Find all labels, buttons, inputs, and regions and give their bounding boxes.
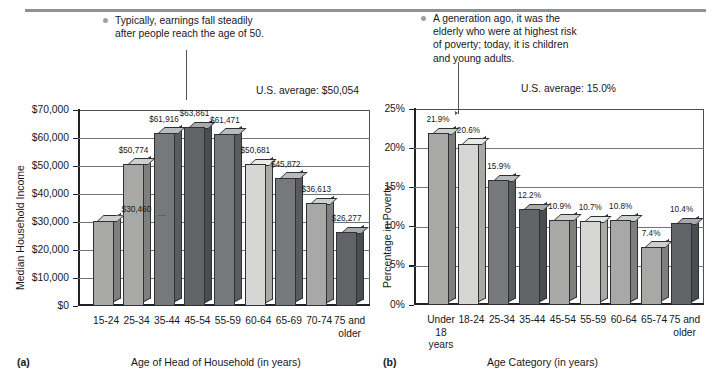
bar-front-face: [123, 164, 144, 306]
bar-value-label: $63,861: [180, 109, 210, 118]
bar-side-face: [114, 213, 121, 302]
bar-front-face: [306, 203, 327, 306]
panel-letter-b: (b): [383, 356, 396, 368]
plot-right-border: [703, 109, 704, 305]
bar-side-face: [601, 214, 608, 302]
bar-side-face: [509, 173, 516, 301]
bar: $45,872: [275, 178, 296, 306]
bar: $63,861: [184, 127, 205, 306]
panel-letter-a: (a): [17, 356, 30, 368]
y-axis-tick: [73, 166, 78, 167]
y-axis-tick: [409, 109, 414, 110]
plot-top-border: [414, 109, 704, 110]
callout-leader-a: [186, 50, 187, 100]
bar-value-label: 10.4%: [670, 205, 693, 214]
x-axis-title-b: Age Category (in years): [487, 356, 598, 368]
bar-front-face: [641, 247, 662, 305]
bar: 21.9%: [428, 133, 449, 305]
bar-front-face: [610, 220, 631, 305]
bar-side-face: [540, 202, 547, 301]
plot-area-b: 25%20%15%10%5%0%21.9%Under 18 years20.6%…: [414, 109, 704, 305]
y-axis-tick-label: 15%: [375, 181, 405, 192]
y-axis-tick-label: $30,000: [13, 216, 69, 227]
bar-front-face: [458, 144, 479, 306]
us-average-b: U.S. average: 15.0%: [521, 83, 616, 94]
bar-side-face: [205, 120, 212, 303]
bar-value-label: 10.9%: [548, 202, 571, 211]
y-axis-tick-label: 5%: [375, 259, 405, 270]
bar-value-label: 20.6%: [457, 126, 480, 135]
callout-note-b-text: A generation ago, it was the elderly who…: [421, 12, 626, 65]
bar-side-face: [479, 136, 486, 301]
bar-front-face: [671, 223, 692, 305]
y-axis-tick-label: 25%: [375, 103, 405, 114]
bar-value-label: $36,613: [301, 185, 331, 194]
bar: $61,916: [154, 133, 175, 306]
bar: $61,471: [214, 134, 235, 306]
bar-front-face: [580, 221, 601, 305]
bar-value-label: $61,916: [149, 115, 179, 124]
bar: 7.4%: [641, 247, 662, 305]
bar-side-face: [144, 157, 151, 303]
y-axis-tick: [73, 250, 78, 251]
bar: 10.7%: [580, 221, 601, 305]
bar-front-face: [245, 164, 266, 306]
value-label-leader: [116, 215, 124, 216]
y-axis-tick: [73, 138, 78, 139]
bar-front-face: [184, 127, 205, 306]
bar-value-label: 21.9%: [426, 115, 449, 124]
bar-value-label: $30,460: [122, 205, 152, 214]
y-axis-tick-label: $0: [13, 300, 69, 311]
bar-value-label: $50,774: [119, 146, 149, 155]
bar-value-label: 7.4%: [642, 229, 661, 238]
callout-leader-b: [458, 62, 459, 114]
bar-side-face: [327, 196, 334, 302]
y-axis-tick: [409, 148, 414, 149]
y-axis-tick: [73, 306, 78, 307]
y-axis-tick-label: 20%: [375, 142, 405, 153]
bar: $26,277: [336, 232, 357, 306]
bar: $50,774: [123, 164, 144, 306]
y-axis-tick-label: $40,000: [13, 188, 69, 199]
y-axis-tick: [409, 187, 414, 188]
callout-note-a: Typically, earnings fall steadily after …: [103, 14, 318, 40]
x-axis-title-a: Age of Head of Household (in years): [131, 356, 301, 368]
y-axis-title-b: Percentage in Poverty: [381, 185, 393, 288]
callout-note-a-text: Typically, earnings fall steadily after …: [103, 14, 318, 40]
callout-note-b: A generation ago, it was the elderly who…: [421, 12, 626, 65]
bar-side-face: [449, 126, 456, 301]
bar-side-face: [175, 125, 182, 302]
y-axis-tick-label: 0%: [375, 299, 405, 310]
bar-value-label: $45,872: [271, 160, 301, 169]
bar-front-face: [336, 232, 357, 306]
bullet-icon: [421, 16, 426, 21]
bar-front-face: [428, 133, 449, 305]
bar-value-label: 10.8%: [609, 202, 632, 211]
y-axis-tick: [73, 194, 78, 195]
plot-area-a: $70,000$60,000$50,000$40,000$30,000$20,0…: [78, 110, 370, 306]
bar: 10.8%: [610, 220, 631, 305]
y-axis-tick-label: 10%: [375, 220, 405, 231]
bar-side-face: [266, 157, 273, 303]
y-axis-tick: [409, 265, 414, 266]
panel-b: A generation ago, it was the elderly who…: [360, 0, 719, 385]
bar-side-face: [692, 216, 699, 301]
bar-side-face: [662, 240, 669, 302]
bar-value-label: 10.7%: [579, 203, 602, 212]
bar: [93, 221, 114, 306]
y-axis-tick-label: $10,000: [13, 272, 69, 283]
y-axis-tick: [73, 278, 78, 279]
bar-value-label: 12.2%: [518, 191, 541, 200]
bar: 20.6%: [458, 144, 479, 306]
y-axis-tick-label: $20,000: [13, 244, 69, 255]
bar-front-face: [549, 220, 570, 305]
y-axis-tick: [409, 305, 414, 306]
figure-root: Typically, earnings fall steadily after …: [0, 0, 719, 385]
bar-front-face: [93, 221, 114, 306]
bar: 15.9%: [488, 180, 509, 305]
bar-value-label: $61,471: [210, 116, 240, 125]
y-axis-tick-label: $60,000: [13, 132, 69, 143]
bar: $36,613: [306, 203, 327, 306]
bar-value-label: 15.9%: [487, 162, 510, 171]
y-axis-tick: [73, 110, 78, 111]
